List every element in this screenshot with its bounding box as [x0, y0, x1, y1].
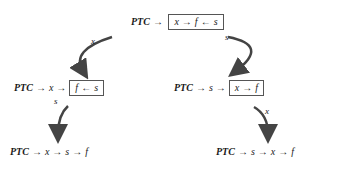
arrow-glyph: → — [36, 82, 46, 93]
term: f — [255, 82, 258, 93]
arrow-glyph: → — [153, 16, 163, 27]
arrow-glyph: → — [72, 146, 82, 157]
term: x — [235, 82, 239, 93]
ptc-label: PTC — [174, 82, 193, 93]
arrow-glyph: → — [258, 146, 268, 157]
ptc-label: PTC — [10, 146, 29, 157]
term: s — [214, 16, 218, 27]
edge-label-top-right: s — [225, 32, 229, 42]
arrow-glyph: → — [242, 82, 252, 93]
arrow-glyph: → — [182, 16, 192, 27]
boxed-group: x→f←s — [168, 14, 223, 30]
term: s — [251, 146, 255, 157]
ptc-label: PTC — [131, 16, 150, 27]
node-bot-left: PTC→x→s→f — [10, 146, 88, 158]
arrow-glyph: → — [56, 82, 66, 93]
node-bot-right: PTC→s→x→f — [216, 146, 294, 158]
arrow-glyph: → — [238, 146, 248, 157]
edge-top-to-mid-right — [228, 37, 251, 71]
edge-label-mid-left: s — [54, 96, 58, 106]
arrow-glyph: → — [278, 146, 288, 157]
edge-label-mid-right: x — [265, 106, 269, 116]
term: f — [75, 82, 78, 93]
edge-top-to-mid-left — [80, 37, 112, 71]
boxed-group: f←s — [69, 80, 104, 96]
node-mid-right: PTC→s→x→f — [174, 80, 264, 96]
term: f — [291, 146, 294, 157]
boxed-group: x→f — [229, 80, 264, 96]
arrow-glyph: ← — [81, 82, 91, 93]
term: x — [271, 146, 275, 157]
edge-label-top-left: x — [91, 36, 95, 46]
edge-mid-left-to-bot-left — [58, 106, 68, 134]
arrow-glyph: → — [52, 146, 62, 157]
term: x — [174, 16, 178, 27]
term: f — [85, 146, 88, 157]
ptc-label: PTC — [216, 146, 235, 157]
node-top: PTC→ x→f←s — [131, 14, 224, 30]
term: x — [45, 146, 49, 157]
term: x — [49, 82, 53, 93]
arrow-glyph: → — [32, 146, 42, 157]
arrow-glyph: → — [196, 82, 206, 93]
term: f — [195, 16, 198, 27]
term: s — [65, 146, 69, 157]
arrow-glyph: → — [216, 82, 226, 93]
term: s — [94, 82, 98, 93]
arrow-glyph: ← — [201, 16, 211, 27]
node-mid-left: PTC→x→f←s — [14, 80, 104, 96]
ptc-label: PTC — [14, 82, 33, 93]
term: s — [209, 82, 213, 93]
